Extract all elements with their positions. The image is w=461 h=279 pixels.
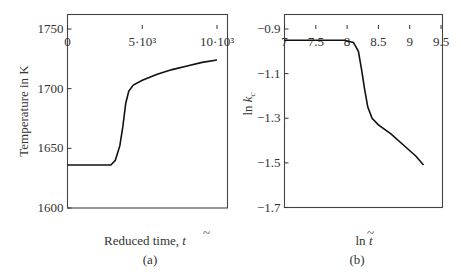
y-tick-label: −1.5 (257, 155, 281, 170)
x-tick-label: 7 (281, 34, 288, 49)
x-tick-label: 8.5 (370, 34, 386, 49)
y-tick-label: 1600 (38, 200, 64, 215)
panel-label-a: (a) (143, 252, 157, 267)
y-tick-label: −1.3 (257, 110, 281, 125)
x-tick-label: 5·10³ (128, 34, 156, 49)
x-tick-label: 9.5 (433, 34, 449, 49)
y-axis-label-a: Temperature in K (16, 65, 31, 157)
x-tick-label: 9 (406, 34, 413, 49)
y-tick-label: 1700 (38, 81, 64, 96)
y-tick-label: −1.7 (257, 200, 281, 215)
y-tick-label: 1650 (38, 140, 64, 155)
y-tick-label: −0.9 (257, 21, 281, 36)
y-tick-label: 1750 (38, 21, 64, 36)
y-tick-label: −1.1 (257, 66, 281, 81)
panel-b: −1.7−1.5−1.3−1.1−0.9 77.588.599.5 ln kc … (240, 15, 449, 268)
temperature-curve (68, 60, 218, 165)
x-axis-label-a: Reduced time, t (104, 233, 186, 248)
x-tick-label: 10·10³ (200, 34, 234, 49)
x-tick-label: 7.5 (308, 34, 324, 49)
ln-kc-curve (285, 40, 424, 165)
y-axis-label-b: ln kc (240, 92, 257, 115)
x-tick-label: 0 (64, 34, 71, 49)
tilde-a: ~ (203, 225, 210, 240)
tilde-b: ~ (367, 225, 374, 240)
panel-label-b: (b) (349, 252, 364, 267)
panel-a: 1600165017001750 05·10³10·10³ Temperatur… (16, 15, 234, 268)
svg-text:ln kc: ln kc (240, 92, 257, 115)
figure: 1600165017001750 05·10³10·10³ Temperatur… (0, 0, 461, 279)
